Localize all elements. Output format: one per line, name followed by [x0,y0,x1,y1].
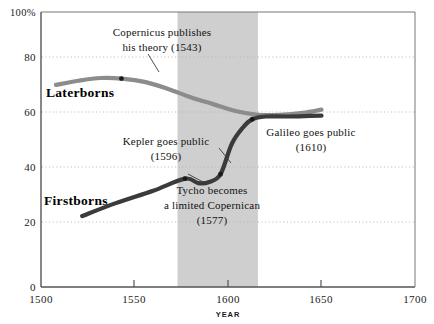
x-tick-1700: 1700 [403,293,427,305]
kepler-annotation-line2: (1596) [151,150,182,163]
shaded-era-band [178,12,258,287]
copernicus-marker [119,76,124,81]
x-tick-1550: 1550 [122,293,146,305]
kepler-marker [218,172,223,177]
chart-container: 100% 80 60 40 20 0 1500 1550 1600 1650 1… [0,0,434,324]
y-tick-80: 80 [24,51,36,63]
galileo-annotation-line2: (1610) [296,141,327,154]
y-tick-20: 20 [24,216,36,228]
x-axis-title: YEAR [216,310,240,319]
kepler-annotation-line1: Kepler goes public [123,135,210,147]
galileo-marker [250,117,255,122]
y-tick-60: 60 [24,106,36,118]
tycho-annotation-line2: a limited Copernican [164,199,261,211]
x-tick-1600: 1600 [216,293,240,305]
tycho-annotation-line1: Tycho becomes [176,184,247,196]
birth-order-science-chart: 100% 80 60 40 20 0 1500 1550 1600 1650 1… [0,0,434,324]
galileo-annotation-line1: Galileo goes public [266,126,355,138]
x-tick-1500: 1500 [29,293,53,305]
x-tick-1650: 1650 [309,293,333,305]
tycho-marker [183,176,188,181]
y-tick-0: 0 [30,281,36,293]
copernicus-annotation-line1: Copernicus publishes [113,26,211,38]
series-label-firstborns: Firstborns [44,193,108,208]
copernicus-annotation-line2: his theory (1543) [122,41,201,54]
y-tick-100: 100% [10,7,36,18]
tycho-annotation-line3: (1577) [197,214,228,227]
series-label-laterborns: Laterborns [46,85,114,100]
y-tick-40: 40 [24,161,36,173]
